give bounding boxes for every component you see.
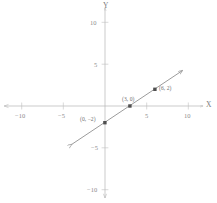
x-tick-label: 10 xyxy=(184,112,191,119)
data-point-marker xyxy=(153,88,156,91)
y-tick-label: −5 xyxy=(91,144,98,151)
y-tick-label: 10 xyxy=(90,19,97,26)
x-axis-label: X xyxy=(206,100,211,109)
plot-area xyxy=(0,0,217,203)
y-tick-label: 5 xyxy=(94,61,97,68)
x-tick-label: −5 xyxy=(58,112,65,119)
coordinate-graph: Y X −10 −5 5 10 10 5 −5 −10 (0, −2) (3, … xyxy=(0,0,217,203)
point-label-3-0: (3, 0) xyxy=(122,96,134,102)
data-point-marker xyxy=(103,121,106,124)
x-tick-label: −10 xyxy=(15,112,25,119)
point-label-0-neg2: (0, −2) xyxy=(80,116,96,122)
data-line xyxy=(72,71,183,145)
data-point-marker xyxy=(128,104,131,107)
point-label-6-2: (6, 2) xyxy=(159,85,171,91)
y-tick-label: −10 xyxy=(87,186,97,193)
y-axis-label: Y xyxy=(103,1,108,10)
x-tick-label: 5 xyxy=(145,112,148,119)
